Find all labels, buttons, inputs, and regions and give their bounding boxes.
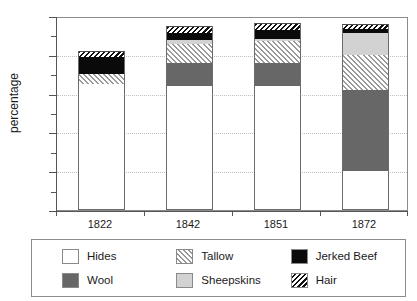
y-tick-60 [49,95,56,96]
bar-segment-1851-hides [254,86,301,210]
bar-segment-1872-sheepskins [342,33,389,55]
bar-segment-1851-jerkedbeef [254,30,301,40]
bar-segment-1872-wool [342,90,389,171]
bar-segment-1822-hair [78,51,125,57]
y-axis-line [56,17,57,211]
bar-segment-1842-wool [166,63,213,86]
x-tick-1 [144,211,145,216]
legend-label: Sheepskins [201,274,260,286]
y-tick-20 [49,172,56,173]
legend-item-hair[interactable]: Hair [291,273,405,288]
bar-segment-1842-sheepskins [166,40,213,44]
bar-segment-1872-hair [342,24,389,29]
legend-item-wool[interactable]: Wool [62,273,176,288]
legend-item-jerkedbeef[interactable]: Jerked Beef [291,249,405,264]
legend-label: Hides [87,250,116,262]
bar-1851 [254,16,301,210]
bar-segment-1822-jerkedbeef [78,57,125,74]
x-tick-label-1872: 1872 [334,218,394,230]
plot-area [56,17,408,211]
x-tick-label-1822: 1822 [70,218,130,230]
legend-label: Wool [87,274,113,286]
bar-1822 [78,16,125,210]
swatch-hatch-forward-icon [176,249,193,264]
bar-segment-1842-hair [166,26,213,34]
bar-segment-1842-tallow [166,44,213,62]
bar-segment-1851-sheepskins [254,39,301,41]
legend: HidesTallowJerked BeefWoolSheepskinsHair [31,239,406,297]
y-tick-40 [49,133,56,134]
bar-segment-1872-hides [342,171,389,210]
x-tick-2 [232,211,233,216]
bar-segment-1872-jerkedbeef [342,29,389,33]
swatch-white-icon [62,249,79,264]
legend-item-sheepskins[interactable]: Sheepskins [176,273,290,288]
bar-segment-1822-tallow [78,74,125,84]
stacked-bar-chart: percentage 020406080100 1822184218511872… [0,0,417,301]
x-tick-0 [56,211,57,216]
y-tick-0 [49,211,56,212]
legend-item-tallow[interactable]: Tallow [176,249,290,264]
bar-segment-1872-tallow [342,55,389,90]
legend-label: Hair [316,274,337,286]
y-tick-80 [49,56,56,57]
x-tick-label-1842: 1842 [158,218,218,230]
swatch-black-icon [291,249,308,264]
bar-segment-1842-hides [166,86,213,210]
bar-1842 [166,16,213,210]
y-tick-100 [49,17,56,18]
bar-segment-1822-hides [78,84,125,210]
legend-label: Tallow [201,250,233,262]
swatch-lightgray-icon [176,273,193,288]
bar-1872 [342,16,389,210]
legend-item-hides[interactable]: Hides [62,249,176,264]
bar-segment-1842-jerkedbeef [166,33,213,40]
x-tick-4 [407,211,408,216]
bar-segment-1851-wool [254,63,301,86]
swatch-hatch-backward-icon [291,273,308,288]
x-tick-label-1851: 1851 [246,218,306,230]
x-tick-3 [320,211,321,216]
bar-segment-1851-hair [254,23,301,30]
legend-label: Jerked Beef [316,250,377,262]
bar-segment-1851-tallow [254,41,301,62]
swatch-darkgray-icon [62,273,79,288]
